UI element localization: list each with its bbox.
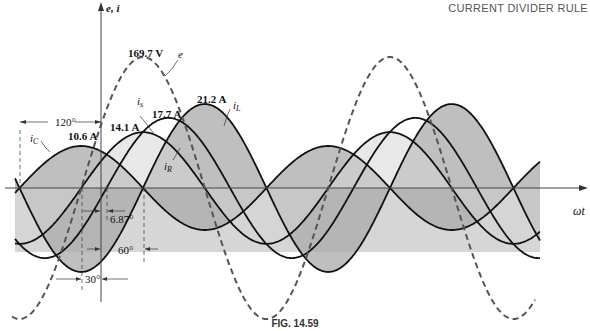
arrowhead-icon (20, 120, 26, 124)
is-curve-label: is (137, 96, 143, 109)
arrowhead-icon (95, 120, 101, 124)
arrowhead-icon (102, 277, 107, 281)
e-leader (165, 60, 178, 76)
angle-30-label: 30° (85, 274, 100, 285)
e-curve-label: e (178, 49, 183, 60)
y-axis-label: e, i (106, 3, 119, 14)
angle-60-label: 60° (118, 245, 133, 256)
e-peak-label: 169.7 V (128, 48, 163, 59)
y-axis-arrow-icon (98, 2, 104, 11)
angle-120-label: 120° (55, 117, 76, 128)
angle-6-87-label: 6.87° (110, 214, 134, 225)
x-axis-arrow-icon (579, 185, 588, 191)
is-peak-label: 17.7 A (152, 109, 181, 120)
iC-leader (41, 141, 50, 152)
figure-caption: FIG. 14.59 (0, 318, 590, 329)
iL-curve-label: iL (233, 100, 241, 113)
iC-curve-label: iC (30, 133, 38, 146)
arrowhead-icon (76, 277, 81, 281)
x-axis-label: ωt (573, 205, 585, 217)
iC-peak-label: 10.6 A (68, 131, 97, 142)
iR-curve-label: iR (164, 161, 172, 174)
section-title: CURRENT DIVIDER RULE (448, 2, 588, 14)
iL-peak-label: 21.2 A (197, 94, 226, 105)
iR-peak-label: 14.1 A (110, 122, 139, 133)
